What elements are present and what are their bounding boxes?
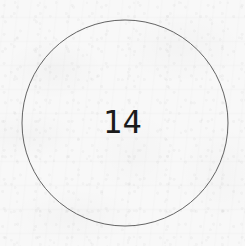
scanned-page: 14 xyxy=(0,0,245,246)
circle-number-label: 14 xyxy=(103,106,143,138)
circle-label-layer: 14 xyxy=(0,0,245,246)
